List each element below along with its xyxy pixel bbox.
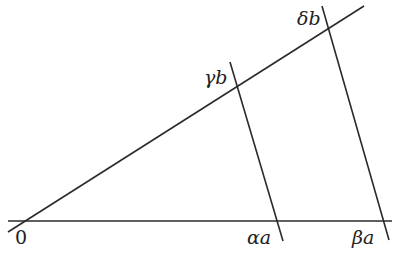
origin-label: 0 xyxy=(15,226,27,248)
transversal-delta-beta xyxy=(322,6,389,240)
alpha-a-label: αa xyxy=(247,226,271,248)
delta-b-label: δb xyxy=(297,7,321,29)
transversal-gamma-alpha xyxy=(230,62,283,241)
gamma-b-label: γb xyxy=(204,66,228,88)
diagonal-ray xyxy=(8,6,364,232)
intercept-theorem-diagram: 0 αa βa γb δb xyxy=(0,0,402,262)
beta-a-label: βa xyxy=(351,226,374,248)
